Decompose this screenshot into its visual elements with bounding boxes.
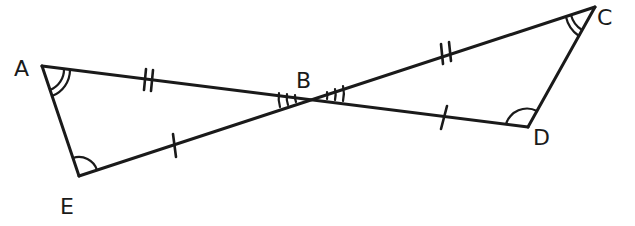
double-tick-bc [441,42,451,64]
segments [42,7,595,176]
segment-a-d [42,66,528,127]
point-labels: A B C D E [14,5,612,219]
label-e: E [60,194,74,219]
label-d: D [533,125,550,150]
angle-mark-a [50,69,70,96]
label-c: C [597,5,612,30]
segment-e-c [79,7,595,176]
single-tick-eb [173,134,176,157]
label-a: A [14,56,29,81]
geometry-diagram: A B C D E [0,0,635,226]
label-b: B [296,68,311,93]
